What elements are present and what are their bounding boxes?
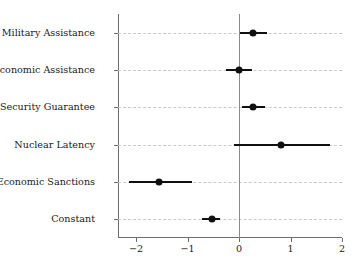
gridline <box>118 33 342 34</box>
point-estimate-marker <box>250 29 257 36</box>
x-axis-tick-label: 1 <box>287 244 293 254</box>
y-axis-label: Nuclear Latency <box>14 140 95 150</box>
x-axis-tick <box>342 238 343 242</box>
y-axis-label: U.S. Economic Assistance <box>0 65 95 75</box>
y-axis-spine <box>118 14 119 238</box>
figure-caption <box>0 256 361 265</box>
plot-panel: U.S. Military AssistanceU.S. Economic As… <box>118 14 342 238</box>
x-axis-tick-label: −1 <box>180 244 194 254</box>
x-axis-tick <box>291 238 292 242</box>
x-axis-tick <box>239 238 240 242</box>
point-estimate-marker <box>236 67 243 74</box>
point-estimate-marker <box>156 179 163 186</box>
x-axis-tick-label: 0 <box>236 244 242 254</box>
y-axis-tick <box>114 70 118 71</box>
x-axis-tick <box>136 238 137 242</box>
y-axis-tick <box>114 33 118 34</box>
y-axis-label: U.S. Economic Sanctions <box>0 177 95 187</box>
coefficient-plot-figure: U.S. Military AssistanceU.S. Economic As… <box>0 0 361 273</box>
y-axis-tick <box>114 182 118 183</box>
point-estimate-marker <box>277 141 284 148</box>
y-axis-label: Constant <box>51 214 95 224</box>
y-axis-tick <box>114 107 118 108</box>
x-axis-spine <box>118 237 342 238</box>
x-axis-tick-label: −2 <box>129 244 143 254</box>
point-estimate-marker <box>250 104 257 111</box>
gridline <box>118 107 342 108</box>
x-axis-tick <box>188 238 189 242</box>
y-axis-label: U.S. Military Assistance <box>0 28 95 38</box>
point-estimate-marker <box>208 216 215 223</box>
y-axis-label: U.S. Security Guarantee <box>0 102 95 112</box>
gridline <box>118 219 342 220</box>
zero-reference-line <box>239 14 240 238</box>
y-axis-tick <box>114 219 118 220</box>
x-axis-tick-label: 2 <box>339 244 345 254</box>
y-axis-tick <box>114 145 118 146</box>
